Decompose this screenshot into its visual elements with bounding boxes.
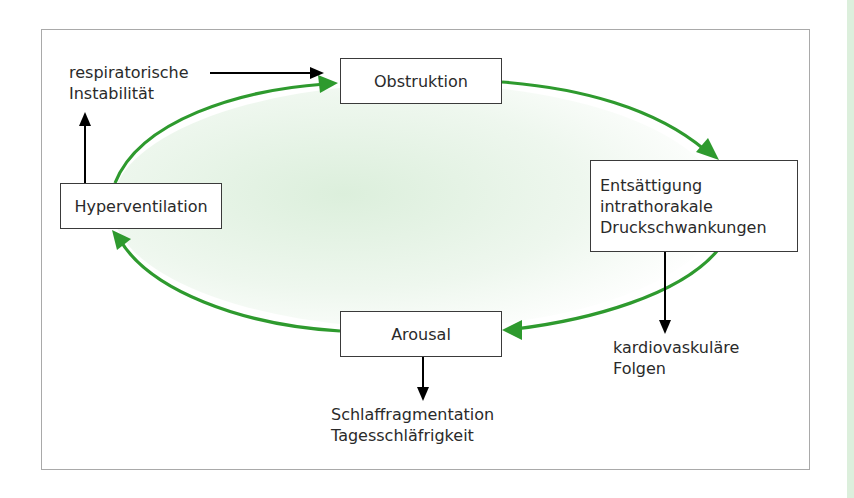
output-schlaffragmentation: Schlaffragmentation Tagesschläfrigkeit bbox=[331, 404, 494, 446]
output-schlaf-line1: Schlaffragmentation bbox=[331, 404, 494, 425]
output-kardiovaskulaer-line2: Folgen bbox=[613, 358, 739, 379]
output-respiratorische-instabilitaet: respiratorische Instabilität bbox=[69, 62, 189, 104]
node-arousal: Arousal bbox=[340, 311, 502, 357]
node-obstruktion-label: Obstruktion bbox=[374, 71, 468, 92]
node-obstruktion: Obstruktion bbox=[340, 58, 502, 104]
output-kardiovaskulaere-folgen: kardiovaskuläre Folgen bbox=[613, 337, 739, 379]
node-entsaettigung-line1: Entsättigung bbox=[600, 175, 702, 196]
output-kardiovaskulaer-line1: kardiovaskuläre bbox=[613, 337, 739, 358]
output-respiratorisch-line2: Instabilität bbox=[69, 83, 189, 104]
node-hyperventilation-label: Hyperventilation bbox=[74, 196, 207, 217]
arrowhead-entsaettigung bbox=[696, 138, 719, 160]
node-entsaettigung: Entsättigung intrathorakale Druckschwank… bbox=[590, 160, 798, 252]
node-hyperventilation: Hyperventilation bbox=[60, 183, 222, 229]
arrowhead-arousal bbox=[502, 320, 522, 340]
node-entsaettigung-line3: Druckschwankungen bbox=[600, 217, 767, 238]
node-entsaettigung-line2: intrathorakale bbox=[600, 196, 713, 217]
output-respiratorisch-line1: respiratorische bbox=[69, 62, 189, 83]
output-schlaf-line2: Tagesschläfrigkeit bbox=[331, 425, 494, 446]
node-arousal-label: Arousal bbox=[391, 324, 451, 345]
